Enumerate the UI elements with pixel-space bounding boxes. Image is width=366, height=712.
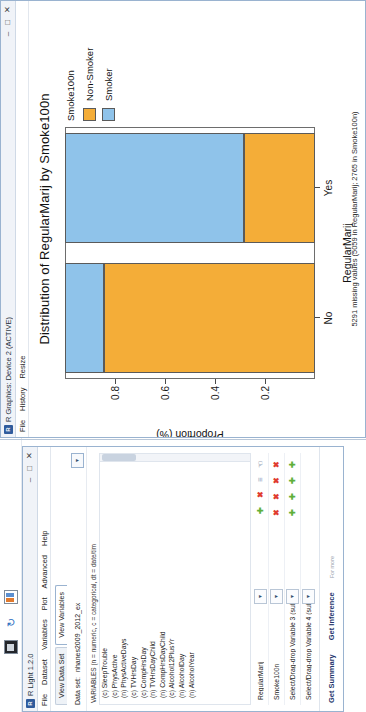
plus-icon[interactable]: ✚ — [289, 509, 297, 516]
list-item[interactable]: (c) Alcohol12PlusYr — [167, 454, 177, 704]
chart-caption: 5291 missing values (5059 in RegularMari… — [350, 1, 359, 437]
slot-icon-group: ✖ ✖ ✖ ✖ — [273, 453, 281, 516]
list-item[interactable]: (c) PhysActive — [110, 454, 120, 704]
remove-icon[interactable]: ✖ — [273, 509, 281, 516]
remove-icon[interactable]: ✖ — [273, 461, 281, 468]
graphics-menubar: File History Resize — [16, 1, 29, 437]
bar-yes-non-smoker — [244, 133, 315, 243]
menu-file[interactable]: File — [40, 694, 49, 706]
variables-list[interactable]: (c) SleepTrouble (c) PhysActive (n) Phys… — [99, 453, 251, 705]
close-icon[interactable]: ✕ — [26, 452, 34, 459]
legend-swatch-non-smoker — [83, 108, 96, 121]
graphics-window-title: R Graphics: Device 2 (ACTIVE) — [4, 317, 13, 422]
list-item[interactable]: (n) AlcoholYear — [186, 454, 196, 704]
menu-file[interactable]: File — [18, 420, 27, 432]
get-inference-button[interactable]: Get Inference — [327, 592, 336, 640]
graphics-window-buttons: – □ ✕ — [4, 4, 12, 36]
footer-note: For more — [329, 556, 335, 578]
x-tick — [315, 187, 320, 188]
dataset-label: Data set: — [74, 677, 81, 705]
dataset-dropdown-icon[interactable]: ▾ — [71, 453, 84, 468]
menu-dataset[interactable]: Dataset — [40, 659, 49, 685]
refresh-icon[interactable]: ↻ — [5, 616, 17, 628]
r-logo-icon: R — [4, 425, 13, 434]
slot-icon-group: ✚ ✖ ≡ ☜ — [257, 453, 265, 514]
variable-slot-row[interactable]: Select/Drag-drop Variable 4 (subset) ▾ — [301, 453, 316, 705]
data-view-icon[interactable] — [4, 640, 18, 654]
y-tick — [115, 379, 116, 384]
get-summary-button[interactable]: Get Summary — [327, 654, 336, 703]
legend-title: Smoke100n — [65, 17, 76, 121]
remove-icon[interactable]: ✖ — [257, 491, 265, 498]
slot-variable-name: Select/Drag-drop Variable 3 (subset) — [289, 604, 296, 705]
gui-titlebar: R R Light 1.2.0 – □ ✕ — [23, 447, 38, 711]
legend-entry: Non-Smoker — [83, 17, 96, 121]
menu-plot[interactable]: Plot — [40, 597, 49, 610]
slot-dropdown-icon[interactable]: ▾ — [286, 589, 299, 604]
plus-icon[interactable]: ✚ — [289, 477, 297, 484]
gui-window-buttons: – □ ✕ — [26, 450, 34, 482]
menu-history[interactable]: History — [18, 388, 27, 411]
dataset-row: Data set: nhanes2009_2012_ex ▾ — [67, 447, 86, 711]
slot-variable-name: RegularMarij — [257, 604, 264, 705]
plot-area: 0.8 0.6 0.4 0.2 Proportion (%) — [65, 127, 315, 379]
gui-window: R R Light 1.2.0 – □ ✕ File Dataset Varia… — [22, 446, 344, 712]
variables-header: VARIABLES (n = numeric, c = categorical,… — [86, 447, 99, 711]
scrollbar-thumb[interactable] — [102, 454, 136, 461]
dataset-value: nhanes2009_2012_ex — [74, 603, 81, 672]
variable-slot-panel: RegularMarij ▾ ✚ ✖ ≡ ☜ Smoke100n ▾ ✖ ✖ — [253, 453, 317, 705]
tab-view-data-set[interactable]: View Data Set — [55, 647, 67, 705]
minimize-icon[interactable]: – — [26, 478, 34, 482]
screen-stage: ↻ R R Light 1.2.0 – □ ✕ File Dataset Var… — [0, 0, 366, 712]
variable-slot-row[interactable]: Smoke100n ▾ ✖ ✖ ✖ ✖ — [269, 453, 285, 705]
list-item[interactable]: (c) SleepTrouble — [100, 454, 110, 704]
graphics-titlebar: R R Graphics: Device 2 (ACTIVE) – □ ✕ — [1, 1, 16, 437]
plus-icon[interactable]: ✚ — [289, 461, 297, 468]
chart-legend: Smoke100n Non-Smoker Smoker — [65, 17, 121, 121]
slot-dropdown-icon[interactable]: ▾ — [302, 589, 315, 604]
gui-menubar: File Dataset Variables Plot Advanced Hel… — [38, 447, 51, 711]
variable-slot-row[interactable]: Select/Drag-drop Variable 3 (subset) ▾ ✚… — [285, 453, 301, 705]
menu-help[interactable]: Help — [40, 531, 49, 546]
slot-dropdown-icon[interactable]: ▾ — [270, 589, 283, 604]
gui-footer: Get Summary Get Inference For more — [319, 447, 343, 711]
legend-label-smoker: Smoker — [103, 68, 114, 101]
panel-layout-icon[interactable] — [4, 590, 18, 604]
y-tick — [215, 379, 216, 384]
plot-canvas: Distribution of RegularMarij by Smoke100… — [29, 1, 365, 437]
menu-resize[interactable]: Resize — [18, 356, 27, 379]
remove-icon[interactable]: ✖ — [273, 477, 281, 484]
list-item[interactable]: (c) CompHrsDay — [138, 454, 148, 704]
minimize-icon[interactable]: – — [4, 32, 12, 36]
y-tick — [165, 379, 166, 384]
slot-variable-name: Select/Drag-drop Variable 4 (subset) — [305, 604, 312, 705]
remove-icon[interactable]: ✖ — [273, 493, 281, 500]
slot-icon-group: ✚ ✚ ✚ ✚ — [289, 453, 297, 516]
list-item[interactable]: (c) TVHrsDay — [129, 454, 139, 704]
slot-dropdown-icon[interactable]: ▾ — [254, 589, 267, 604]
list-item[interactable]: (n) CompHrsDayChild — [158, 454, 168, 704]
list-item[interactable]: (n) TVHrsDayChild — [148, 454, 158, 704]
tab-view-variables[interactable]: View Variables — [55, 585, 67, 645]
bars-icon[interactable]: ≡ — [257, 477, 265, 482]
menu-advanced[interactable]: Advanced — [40, 555, 49, 588]
plus-icon[interactable]: ✚ — [289, 493, 297, 500]
quick-toolbar: ↻ — [0, 438, 22, 712]
maximize-icon[interactable]: □ — [4, 20, 12, 25]
maximize-icon[interactable]: □ — [26, 466, 34, 471]
graphics-device-window: R R Graphics: Device 2 (ACTIVE) – □ ✕ Fi… — [0, 0, 366, 438]
list-item[interactable]: (n) AlcoholDay — [177, 454, 187, 704]
chart-title: Distribution of RegularMarij by Smoke100… — [37, 1, 52, 437]
y-tick — [265, 379, 266, 384]
variable-slot-row[interactable]: RegularMarij ▾ ✚ ✖ ≡ ☜ — [253, 453, 269, 705]
plus-icon[interactable]: ✚ — [257, 507, 265, 514]
close-icon[interactable]: ✕ — [4, 6, 12, 13]
legend-swatch-smoker — [102, 108, 115, 121]
list-item[interactable]: (n) PhysActiveDays — [119, 454, 129, 704]
variables-scrollbar[interactable] — [99, 453, 251, 462]
legend-entry: Smoker — [102, 17, 115, 121]
hand-icon[interactable]: ☜ — [257, 461, 265, 468]
y-axis-title: Proportion (%) — [156, 429, 224, 437]
menu-variables[interactable]: Variables — [40, 619, 49, 650]
gui-window-title: R Light 1.2.0 — [26, 653, 35, 696]
